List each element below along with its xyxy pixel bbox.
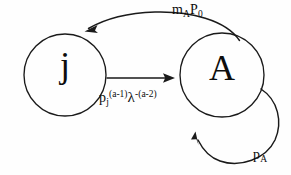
edge-label-j-to-a-base1: p [99, 90, 106, 105]
edge-label-j-to-a-base2: λ [128, 89, 135, 105]
edge-label-a-to-j-sub1: A [183, 9, 190, 19]
edge-label-j-to-a: pj(a-1)λ-(a-2) [99, 90, 157, 107]
edge-a-to-j-path [89, 12, 240, 41]
edge-a-self-loop-arrowhead [191, 132, 199, 146]
edge-label-a-self-loop: pA [253, 148, 267, 164]
diagram-canvas [0, 0, 291, 175]
edge-label-a-self-loop-sub1: A [260, 154, 267, 164]
edge-label-j-to-a-sup2: -(a-2) [135, 89, 157, 99]
edge-label-a-to-j-base1: m [172, 2, 183, 17]
edge-label-a-to-j: mAP0 [172, 3, 203, 19]
state-transition-diagram: j A mAP0 pj(a-1)λ-(a-2) pA [0, 0, 291, 175]
node-label-j: j [0, 47, 130, 83]
edge-label-j-to-a-term2: λ-(a-2) [128, 90, 157, 105]
edge-label-j-to-a-sup1: (a-1) [109, 89, 128, 99]
edge-a-to-j[interactable] [85, 12, 240, 41]
edge-label-a-to-j-base2: P [190, 2, 198, 17]
edge-label-j-to-a-term1: pj(a-1) [99, 90, 128, 107]
node-label-a: A [157, 50, 287, 86]
edge-label-a-self-loop-base1: p [253, 147, 260, 162]
edge-label-a-to-j-sub2: 0 [198, 9, 203, 19]
